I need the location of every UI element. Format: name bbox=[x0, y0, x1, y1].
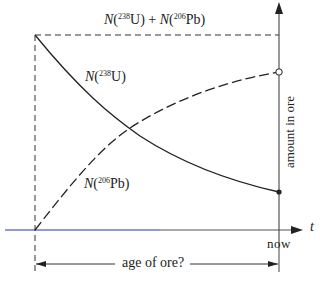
decay-diagram: N(238U) + N(206Pb) N(238U) N(206Pb) amou… bbox=[0, 0, 320, 281]
age-arrow-left-icon bbox=[36, 261, 46, 267]
now-label: now bbox=[267, 236, 291, 252]
lead-now-point bbox=[276, 69, 282, 75]
uranium-decay-curve bbox=[35, 35, 279, 192]
time-axis-arrow-icon bbox=[291, 226, 303, 234]
total-label: N(238U) + N(206Pb) bbox=[104, 12, 205, 28]
uranium-now-point bbox=[276, 189, 281, 194]
amount-axis-arrow-icon bbox=[275, 2, 283, 14]
uranium-label: N(238U) bbox=[85, 69, 126, 85]
y-axis-label: amount in ore bbox=[282, 82, 298, 182]
age-arrow-right-icon bbox=[268, 261, 278, 267]
x-axis-label: t bbox=[310, 219, 314, 235]
age-label: age of ore? bbox=[122, 255, 184, 271]
lead-growth-curve bbox=[35, 72, 279, 230]
lead-label: N(206Pb) bbox=[84, 176, 129, 192]
